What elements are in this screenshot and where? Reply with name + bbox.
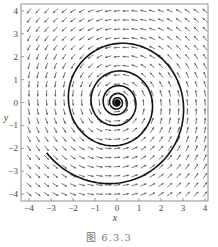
y-tick-label: −4 bbox=[8, 189, 18, 199]
y-tick-label: 2 bbox=[14, 52, 19, 62]
phase-portrait-chart: −4−3−2−101234 −4−3−2−101234 x y bbox=[0, 0, 218, 247]
y-tick-label: 1 bbox=[14, 75, 19, 85]
y-tick-label: 0 bbox=[14, 98, 19, 108]
x-tick-label: −2 bbox=[68, 203, 78, 213]
x-axis-label: x bbox=[112, 212, 118, 223]
x-tick-label: 2 bbox=[159, 203, 164, 213]
y-tick-label: 3 bbox=[14, 29, 19, 39]
x-tick-label: 4 bbox=[203, 203, 208, 213]
x-tick-label: −1 bbox=[90, 203, 100, 213]
x-tick-label: −4 bbox=[24, 203, 34, 213]
y-axis-label: y bbox=[3, 112, 9, 123]
y-tick-label: 4 bbox=[14, 6, 19, 16]
y-tick-label: −2 bbox=[8, 143, 18, 153]
x-tick-label: −3 bbox=[46, 203, 56, 213]
x-tick-label: 3 bbox=[181, 203, 186, 213]
figure-caption: 图 6.3.3 bbox=[0, 229, 218, 244]
x-tick-label: 1 bbox=[137, 203, 142, 213]
y-tick-label: −1 bbox=[8, 120, 18, 130]
y-tick-label: −3 bbox=[8, 166, 18, 176]
